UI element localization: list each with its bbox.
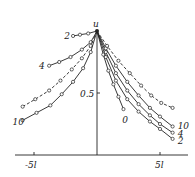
data-point-marker xyxy=(107,69,110,72)
curve-label: 10 xyxy=(13,117,25,127)
data-point-marker xyxy=(126,89,129,92)
data-point-marker xyxy=(117,95,120,98)
series-line xyxy=(23,31,97,120)
curve-label: 2 xyxy=(177,136,184,146)
data-point-marker xyxy=(21,105,24,108)
x-tick-label-neg5: -5l xyxy=(25,160,37,170)
data-point-marker xyxy=(78,33,81,36)
data-point-marker xyxy=(150,94,153,97)
data-point-marker xyxy=(89,50,92,53)
data-point-marker xyxy=(114,72,117,75)
data-point-marker xyxy=(87,32,90,35)
data-point-marker xyxy=(171,106,174,109)
data-point-marker xyxy=(126,80,129,83)
series-line xyxy=(73,31,97,36)
data-point-marker xyxy=(105,44,108,47)
series-layer xyxy=(21,29,174,140)
data-point-marker xyxy=(112,83,115,86)
data-point-marker xyxy=(82,67,85,70)
data-point-marker xyxy=(59,79,62,82)
data-point-marker xyxy=(71,34,74,37)
data-point-marker xyxy=(48,64,51,67)
data-point-marker xyxy=(158,127,161,130)
chart: u 0.5 -5l 5l 241001042 xyxy=(0,0,195,177)
data-point-marker xyxy=(126,98,129,101)
data-point-marker xyxy=(122,108,125,111)
data-point-marker xyxy=(104,55,107,58)
data-point-marker xyxy=(171,125,174,128)
axes xyxy=(15,31,188,155)
data-point-marker xyxy=(158,115,161,118)
data-point-marker xyxy=(137,110,140,113)
data-point-marker xyxy=(48,89,51,92)
data-point-marker xyxy=(148,114,151,117)
data-point-marker xyxy=(128,72,131,75)
apex-marker xyxy=(95,29,99,33)
data-point-marker xyxy=(34,98,37,101)
data-point-marker xyxy=(137,103,140,106)
data-point-marker xyxy=(69,55,72,58)
y-axis-label: u xyxy=(93,19,99,29)
curve-label: 0 xyxy=(122,115,128,125)
data-point-marker xyxy=(114,79,117,82)
data-point-marker xyxy=(171,131,174,134)
y-tick-label-05: 0.5 xyxy=(80,89,95,99)
data-point-marker xyxy=(35,111,38,114)
x-tick-label-5: 5l xyxy=(155,160,164,170)
curve-label: 2 xyxy=(63,31,70,41)
data-point-marker xyxy=(114,64,117,67)
data-point-marker xyxy=(160,101,163,104)
curve-label: 4 xyxy=(38,61,45,71)
data-point-marker xyxy=(80,57,83,60)
data-point-marker xyxy=(58,60,61,63)
data-point-marker xyxy=(70,68,73,71)
data-point-marker xyxy=(60,93,63,96)
data-point-marker xyxy=(117,59,120,62)
data-point-marker xyxy=(71,80,74,83)
data-point-marker xyxy=(148,120,151,123)
data-point-marker xyxy=(80,48,83,51)
data-point-marker xyxy=(148,106,151,109)
data-point-marker xyxy=(171,137,174,140)
data-point-marker xyxy=(49,104,52,107)
data-point-marker xyxy=(137,94,140,97)
data-point-marker xyxy=(140,84,143,87)
data-point-marker xyxy=(158,122,161,125)
